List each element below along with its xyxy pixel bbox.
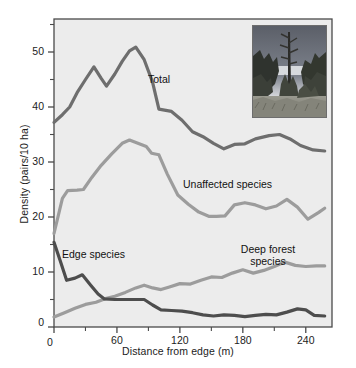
y-tick-label: 50 — [18, 45, 44, 57]
y-tick-label: 10 — [18, 265, 44, 277]
x-axis-title: Distance from edge (m) — [0, 345, 356, 357]
figure-container: 01020304050 060120180240 Density (pairs/… — [0, 0, 356, 368]
x-axis-ticks — [54, 327, 306, 333]
y-tick-label: 0 — [18, 316, 44, 328]
series-label-deep-forest-species: Deep forest species — [232, 243, 304, 267]
y-axis-ticks — [48, 25, 54, 328]
series-label-edge-species: Edge species — [62, 248, 125, 260]
forest-edge-photograph-inset — [252, 25, 327, 118]
y-axis-title: Density (pairs/10 ha) — [18, 104, 30, 244]
deep-forest-label-line-1: Deep forest — [241, 243, 295, 255]
photo-graphic — [253, 26, 326, 117]
deep-forest-label-line-2: species — [250, 255, 286, 267]
series-label-total: Total — [148, 73, 170, 85]
series-label-unaffected-species: Unaffected species — [183, 178, 272, 190]
